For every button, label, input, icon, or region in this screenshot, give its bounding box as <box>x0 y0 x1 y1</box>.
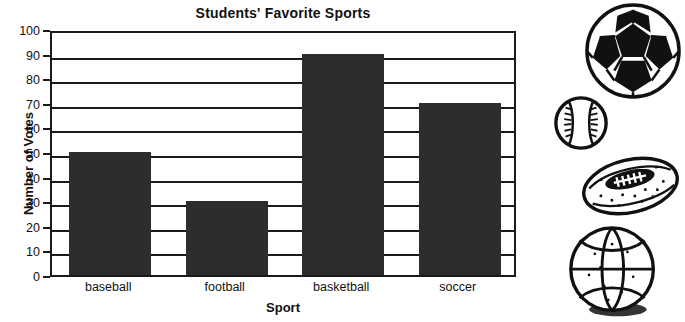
x-axis-tick-label-football: football <box>205 280 245 294</box>
y-axis-tick-mark <box>43 227 50 229</box>
y-axis-tick-labels: 1009080706050403020100 <box>0 31 50 277</box>
y-axis-tick-mark <box>43 30 50 32</box>
baseball-illustration <box>552 94 610 152</box>
bar-baseball <box>69 152 151 275</box>
y-axis-tick-label: 40 <box>26 172 40 186</box>
bar-football <box>186 201 268 275</box>
chart-page: Students' Favorite Sports Number of Vote… <box>0 0 685 322</box>
bar-basketball <box>302 54 384 275</box>
y-axis-tick-mark <box>43 104 50 106</box>
chart-title: Students' Favorite Sports <box>50 5 516 21</box>
y-axis-tick-label: 80 <box>26 73 40 87</box>
football-illustration <box>580 150 682 222</box>
y-axis-tick-mark <box>43 79 50 81</box>
y-axis-tick-mark <box>43 202 50 204</box>
y-axis-tick-mark <box>43 276 50 278</box>
y-axis-tick-label: 0 <box>33 270 40 284</box>
y-axis-tick-mark <box>43 55 50 57</box>
y-axis-tick-label: 30 <box>26 196 40 210</box>
soccer-ball-illustration <box>584 2 682 100</box>
sports-ball-illustrations <box>540 0 685 322</box>
y-axis-tick-label: 10 <box>26 245 40 259</box>
x-axis-tick-label-soccer: soccer <box>439 280 476 294</box>
y-axis-tick-label: 50 <box>26 147 40 161</box>
y-axis-tick-mark <box>43 178 50 180</box>
y-axis-tick-label: 100 <box>19 24 40 38</box>
y-axis-tick-label: 60 <box>26 122 40 136</box>
y-axis-tick-label: 70 <box>26 98 40 112</box>
bar-series <box>52 33 514 275</box>
x-axis-tick-label-baseball: baseball <box>85 280 132 294</box>
y-axis-tick-mark <box>43 128 50 130</box>
plot-area <box>50 31 516 277</box>
bar-soccer <box>419 103 501 275</box>
x-axis-tick-labels: baseballfootballbasketballsoccer <box>50 280 516 300</box>
y-axis-tick-mark <box>43 251 50 253</box>
y-axis-tick-mark <box>43 153 50 155</box>
basketball-illustration <box>566 225 662 321</box>
x-axis-title: Sport <box>50 300 516 315</box>
x-axis-tick-label-basketball: basketball <box>313 280 369 294</box>
y-axis-tick-label: 90 <box>26 49 40 63</box>
y-axis-tick-label: 20 <box>26 221 40 235</box>
